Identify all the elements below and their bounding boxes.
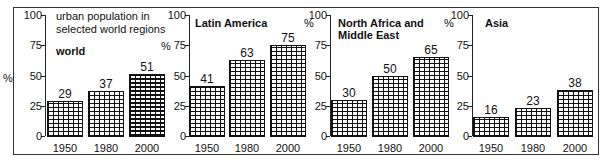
bar-value-label: 50 (372, 63, 408, 75)
bar-2000 (557, 90, 593, 137)
bar-value-label: 23 (515, 95, 551, 107)
y-tick-label: 0 (439, 131, 469, 142)
panel-title-asia: Asia (485, 17, 508, 30)
x-tick-label: 1950 (331, 142, 367, 154)
x-tick-label: 1950 (189, 142, 225, 154)
bar-1980 (229, 60, 265, 137)
bar-value-label: 29 (47, 88, 83, 100)
bar-1980 (372, 76, 408, 138)
panel-title-world: world (56, 45, 85, 58)
x-tick-label: 1980 (372, 142, 408, 154)
y-unit-label: % (304, 17, 314, 29)
x-tick-label: 1980 (88, 142, 124, 154)
x-tick-label: 1950 (473, 142, 509, 154)
y-tick-label: 25 (297, 101, 327, 112)
panel-title-latin-america: Latin America (195, 17, 267, 30)
y-unit-label: % (3, 72, 13, 84)
y-tick-label: 75 (12, 40, 42, 51)
bar-value-label: 16 (473, 104, 509, 116)
y-tick-label: 100 (156, 10, 186, 21)
bar-2000 (413, 57, 449, 137)
y-tick-label: 50 (156, 71, 186, 82)
y-tick-label: 25 (12, 101, 42, 112)
bar-1950 (47, 101, 83, 137)
chart-subtitle-line1: urban population in (56, 10, 150, 23)
x-tick-label: 2000 (129, 142, 165, 154)
bar-1950 (473, 117, 509, 137)
x-tick-label: 1980 (229, 142, 265, 154)
y-tick-label: 0 (156, 131, 186, 142)
bar-value-label: 63 (229, 47, 265, 59)
x-tick-label: 2000 (413, 142, 449, 154)
bar-1980 (88, 91, 124, 137)
bar-value-label: 30 (331, 87, 367, 99)
y-tick-label: 0 (297, 131, 327, 142)
y-tick-label: 100 (12, 10, 42, 21)
bar-1980 (515, 108, 551, 137)
bar-1950 (189, 86, 225, 137)
y-tick-label: 75 (297, 40, 327, 51)
y-unit-label: % (161, 40, 171, 52)
y-tick-label: 50 (439, 71, 469, 82)
y-axis (45, 15, 46, 136)
y-tick-label: 50 (297, 71, 327, 82)
bar-1950 (331, 100, 367, 137)
panel-title-nafme-line2: Middle East (338, 29, 399, 42)
y-tick-label: 25 (439, 101, 469, 112)
x-tick-label: 1980 (515, 142, 551, 154)
y-unit-label: % (444, 17, 454, 29)
y-tick-label: 0 (12, 131, 42, 142)
chart-subtitle-line2: selected world regions (56, 23, 165, 36)
bar-2000 (270, 45, 306, 137)
y-tick-label: 25 (156, 101, 186, 112)
x-tick-label: 2000 (270, 142, 306, 154)
bar-value-label: 37 (88, 78, 124, 90)
y-tick-label: 75 (439, 40, 469, 51)
bar-value-label: 41 (189, 73, 225, 85)
x-tick-label: 2000 (557, 142, 593, 154)
x-tick-label: 1950 (47, 142, 83, 154)
bar-value-label: 38 (557, 77, 593, 89)
y-tick-label: 50 (12, 71, 42, 82)
